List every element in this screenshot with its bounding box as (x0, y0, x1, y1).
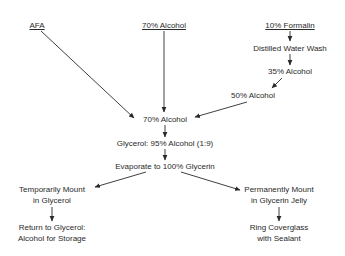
arrow-50-to-70 (195, 102, 247, 117)
node-ring-coverglass: Ring Coverglass with Sealant (250, 222, 309, 244)
node-35-alcohol: 35% Alcohol (268, 66, 312, 77)
flow-arrows (0, 0, 345, 256)
node-label: 70% Alcohol (143, 114, 187, 125)
arrow-evaporate-to-perm (181, 172, 240, 190)
node-label-line2: Alcohol for Storage (18, 233, 86, 244)
node-label: 35% Alcohol (268, 66, 312, 77)
node-label: AFA (29, 20, 44, 31)
node-70-alcohol-mid: 70% Alcohol (143, 114, 187, 125)
node-afa: AFA (29, 20, 44, 31)
node-label-line2: in Glycerol (19, 195, 85, 206)
node-permanently-mount: Permanently Mount in Glycerin Jelly (244, 184, 313, 206)
node-label: 50% Alcohol (231, 90, 275, 101)
node-glycerol-alcohol-mix: Glycerol: 95% Alcohol (1:9) (117, 138, 214, 149)
node-distilled-water-wash: Distilled Water Wash (253, 43, 327, 54)
node-label-line1: Ring Coverglass (250, 222, 309, 233)
arrow-afa-to-70-alcohol (41, 31, 134, 118)
node-label: Glycerol: 95% Alcohol (1:9) (117, 138, 214, 149)
node-temporarily-mount: Temporarily Mount in Glycerol (19, 184, 85, 206)
node-label-line1: Temporarily Mount (19, 184, 85, 195)
node-label-line2: in Glycerin Jelly (244, 195, 313, 206)
node-70-alcohol-top: 70% Alcohol (142, 20, 186, 31)
node-10-formalin: 10% Formalin (265, 20, 314, 31)
node-label: Evaporate to 100% Glycerin (115, 161, 215, 172)
node-label-line1: Return to Glycerol: (18, 222, 86, 233)
arrow-evaporate-to-temp (95, 172, 146, 187)
node-50-alcohol: 50% Alcohol (231, 90, 275, 101)
node-label: 10% Formalin (265, 20, 314, 31)
node-label-line2: with Sealant (250, 233, 309, 244)
node-label: Distilled Water Wash (253, 43, 327, 54)
node-evaporate-glycerin: Evaporate to 100% Glycerin (115, 161, 215, 172)
node-label: 70% Alcohol (142, 20, 186, 31)
node-label-line1: Permanently Mount (244, 184, 313, 195)
arrow-35-to-50 (272, 78, 282, 88)
node-return-to-glycerol: Return to Glycerol: Alcohol for Storage (18, 222, 86, 244)
